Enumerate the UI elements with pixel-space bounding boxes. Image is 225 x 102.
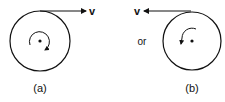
center-dot-b <box>190 39 193 42</box>
velocity-label-b: v <box>134 5 141 17</box>
figure-label-b: (b) <box>185 82 198 94</box>
figure-b: v (b) <box>134 5 221 94</box>
figure-label-a: (a) <box>33 82 46 94</box>
or-connector: or <box>138 36 148 47</box>
center-dot-a <box>38 39 41 42</box>
figure-a: v (a) <box>10 5 96 94</box>
diagram-canvas: v (a) or v (b) <box>0 0 225 102</box>
velocity-label-a: v <box>89 5 96 17</box>
counterclockwise-rotation-arrow-icon <box>181 28 196 44</box>
